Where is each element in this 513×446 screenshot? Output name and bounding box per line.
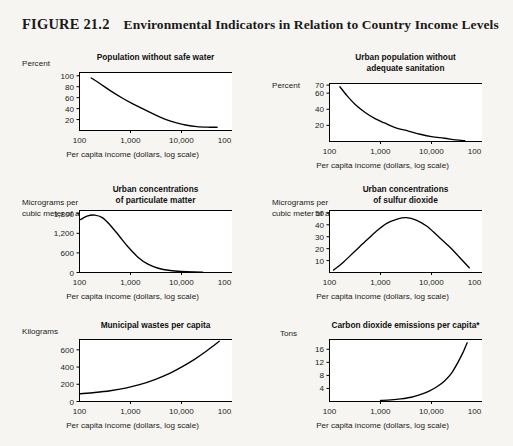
y-tick-label: 0: [69, 269, 74, 278]
chart-title-line: Population without safe water: [79, 52, 232, 63]
chart-title-line: Urban concentrations: [329, 184, 482, 195]
x-tick-label: 100: [73, 136, 87, 145]
chart-y-axis-label: Percent: [22, 59, 50, 70]
plot-frame: [80, 73, 233, 131]
y-tick-label: 10: [315, 257, 325, 266]
x-tick-label: 100: [323, 278, 337, 287]
y-tick-label: 40: [315, 221, 325, 230]
chart-plot: 4812161001,00010,000100,000: [283, 339, 482, 421]
chart-panel-urban-population-without-adequate-sanitation: Urban population withoutadequate sanitat…: [272, 52, 506, 172]
plot-frame: [330, 211, 483, 273]
y-tick-label: 12: [315, 358, 325, 367]
y-tick-label: 70: [315, 83, 325, 90]
x-tick-label: 100,000: [218, 136, 232, 145]
x-tick-label: 100,000: [218, 278, 232, 287]
y-tick-label: 1,800: [54, 210, 75, 219]
chart-title-line: of particulate matter: [79, 195, 232, 206]
x-tick-label: 1,000: [370, 278, 391, 287]
plot-frame: [80, 211, 233, 273]
x-tick-label: 100: [73, 407, 87, 416]
x-tick-label: 100,000: [468, 147, 482, 156]
x-tick-label: 10,000: [169, 136, 194, 145]
chart-x-axis-label: Per capita income (dollars, log scale): [283, 161, 482, 170]
chart-title: Urban concentrationsof particulate matte…: [79, 184, 232, 205]
y-tick-label: 50: [315, 210, 325, 218]
chart-title: Urban population withoutadequate sanitat…: [329, 52, 482, 73]
x-tick-label: 10,000: [419, 147, 444, 156]
plot-frame: [330, 340, 483, 402]
chart-y-axis-label: Tons: [280, 329, 297, 340]
y-tick-label: 80: [65, 83, 75, 92]
figure-title: Environmental Indicators in Relation to …: [124, 17, 499, 33]
chart-x-axis-label: Per capita income (dollars, log scale): [283, 421, 482, 430]
figure-number: FIGURE 21.2: [22, 16, 110, 33]
chart-plot: 06001,2001,8001001,00010,000100,000: [33, 210, 232, 292]
chart-title-line: Carbon dioxide emissions per capita*: [329, 320, 482, 331]
chart-panel-municipal-wastes-per-capita: Municipal wastes per capitaKilograms0200…: [22, 320, 256, 442]
chart-panel-urban-concentrations-of-particulate-matter: Urban concentrationsof particulate matte…: [22, 184, 256, 314]
chart-plot: 02004006001001,00010,000100,000: [33, 339, 232, 421]
plot-frame: [330, 84, 483, 142]
y-tick-label: 600: [60, 249, 74, 258]
chart-title: Urban concentrationsof sulfur dioxide: [329, 184, 482, 205]
y-tick-label: 0: [69, 398, 74, 407]
x-tick-label: 1,000: [120, 136, 141, 145]
x-tick-label: 100,000: [468, 407, 482, 416]
y-tick-label: 600: [60, 346, 74, 355]
x-tick-label: 100: [323, 147, 337, 156]
x-tick-label: 10,000: [169, 278, 194, 287]
y-tick-label: 100: [60, 72, 74, 81]
y-tick-label: 16: [315, 345, 325, 354]
y-tick-label: 20: [315, 245, 325, 254]
chart-title: Population without safe water: [79, 52, 232, 63]
chart-plot: 204060801001001,00010,000100,000: [33, 72, 232, 150]
y-tick-label: 20: [315, 121, 325, 130]
y-tick-label: 1,200: [54, 229, 75, 238]
x-tick-label: 1,000: [120, 278, 141, 287]
chart-x-axis-label: Per capita income (dollars, log scale): [33, 150, 232, 159]
y-tick-label: 200: [60, 380, 74, 389]
chart-title-line: Urban concentrations: [79, 184, 232, 195]
chart-title: Municipal wastes per capita: [79, 320, 232, 331]
y-tick-label: 40: [315, 105, 325, 114]
y-tick-label: 8: [319, 371, 324, 380]
chart-x-axis-label: Per capita income (dollars, log scale): [283, 292, 482, 301]
x-tick-label: 100,000: [218, 407, 232, 416]
x-tick-label: 10,000: [419, 407, 444, 416]
x-tick-label: 10,000: [419, 278, 444, 287]
chart-plot: 204060701001,00010,000100,000: [283, 83, 482, 161]
chart-plot: 10203040501001,00010,000100,000: [283, 210, 482, 292]
x-tick-label: 1,000: [370, 407, 391, 416]
chart-x-axis-label: Per capita income (dollars, log scale): [33, 292, 232, 301]
x-tick-label: 100: [323, 407, 337, 416]
chart-title-line: of sulfur dioxide: [329, 195, 482, 206]
y-tick-label: 4: [319, 384, 324, 393]
chart-y-axis-label: Kilograms: [22, 327, 58, 338]
chart-x-axis-label: Per capita income (dollars, log scale): [33, 421, 232, 430]
x-tick-label: 1,000: [120, 407, 141, 416]
chart-title-line: Municipal wastes per capita: [79, 320, 232, 331]
x-tick-label: 100: [73, 278, 87, 287]
figure-header: FIGURE 21.2 Environmental Indicators in …: [22, 16, 492, 33]
x-tick-label: 100,000: [468, 278, 482, 287]
x-tick-label: 1,000: [370, 147, 391, 156]
chart-panel-carbon-dioxide-emissions-per-capita: Carbon dioxide emissions per capita*Tons…: [272, 320, 506, 442]
chart-title: Carbon dioxide emissions per capita*: [329, 320, 482, 331]
chart-title-line: Urban population without: [329, 52, 482, 63]
y-tick-label: 60: [315, 89, 325, 98]
chart-title-line: adequate sanitation: [329, 63, 482, 74]
x-tick-label: 10,000: [169, 407, 194, 416]
chart-panel-population-without-safe-water: Population without safe waterPercent2040…: [22, 52, 256, 172]
y-tick-label: 20: [65, 116, 75, 125]
chart-panel-urban-concentrations-of-sulfur-dioxide: Urban concentrationsof sulfur dioxideMic…: [272, 184, 506, 314]
y-tick-label: 60: [65, 94, 75, 103]
y-tick-label: 30: [315, 233, 325, 242]
y-tick-label: 400: [60, 363, 74, 372]
y-tick-label: 40: [65, 105, 75, 114]
